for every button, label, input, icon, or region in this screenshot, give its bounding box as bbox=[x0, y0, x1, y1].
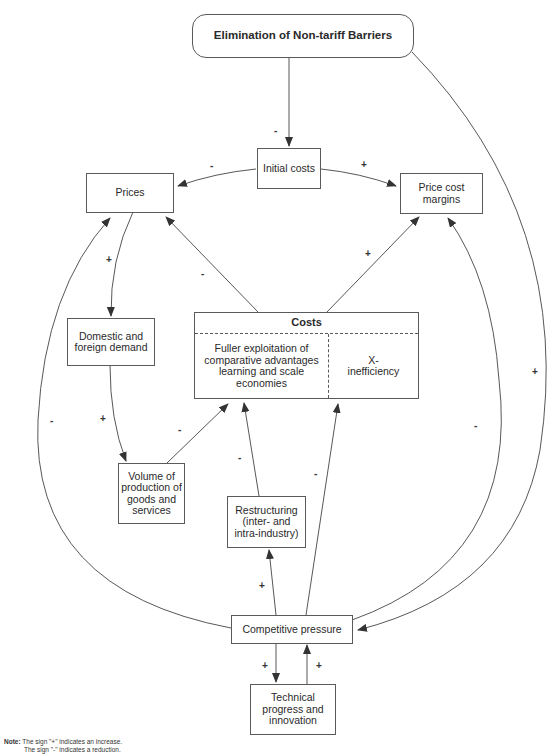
node-label: Initial costs bbox=[263, 163, 315, 175]
node-costs: Costs Fuller exploitation of comparative… bbox=[194, 312, 419, 399]
edge-costs-margins bbox=[327, 217, 419, 312]
node-label: Domestic and foreign demand bbox=[70, 331, 152, 354]
sign-initial-margins: + bbox=[361, 159, 367, 170]
costs-comparative-advantages: Fuller exploitation of comparative advan… bbox=[195, 334, 329, 398]
node-domestic-foreign-demand: Domestic and foreign demand bbox=[67, 318, 155, 366]
node-label: Competitive pressure bbox=[242, 624, 341, 636]
edge-competition-margins bbox=[352, 218, 501, 620]
sign-restructuring-costs: - bbox=[238, 452, 241, 463]
costs-header: Costs bbox=[195, 313, 418, 334]
sign-competition-prices: - bbox=[50, 415, 53, 426]
edge-prices-demand bbox=[111, 212, 133, 316]
sign-costs-margins: + bbox=[365, 248, 371, 259]
sign-demand-volume: + bbox=[100, 413, 106, 424]
legend-note: Note: The sign "+" indicates an increase… bbox=[4, 738, 122, 754]
node-label: Volume of production of goods and servic… bbox=[120, 471, 184, 517]
sign-technical-competition: + bbox=[316, 660, 322, 671]
edge-volume-costs bbox=[167, 404, 228, 463]
node-label: Price cost margins bbox=[412, 182, 472, 205]
edge-initial-margins bbox=[321, 169, 396, 186]
node-price-cost-margins: Price cost margins bbox=[400, 173, 483, 214]
node-label: X-inefficiency bbox=[345, 355, 403, 378]
node-initial-costs: Initial costs bbox=[257, 148, 321, 189]
node-competitive-pressure: Competitive pressure bbox=[231, 615, 353, 644]
sign-prices-demand: + bbox=[106, 254, 112, 265]
note-line-2: The sign "-" indicates a reduction. bbox=[24, 746, 121, 753]
note-line-1: The sign "+" indicates an increase. bbox=[22, 738, 122, 745]
edge-restructuring-costs bbox=[244, 403, 259, 496]
sign-title-initial: - bbox=[274, 125, 277, 136]
sign-initial-prices: - bbox=[210, 160, 213, 171]
node-label: Fuller exploitation of comparative advan… bbox=[201, 343, 323, 389]
node-prices: Prices bbox=[86, 173, 174, 213]
sign-volume-costs: - bbox=[178, 424, 181, 435]
edge-costs-prices bbox=[166, 217, 258, 312]
sign-costs-prices: - bbox=[201, 268, 204, 279]
node-volume-production: Volume of production of goods and servic… bbox=[118, 463, 185, 524]
node-label: Technical progress and innovation bbox=[259, 692, 327, 727]
node-technical-progress: Technical progress and innovation bbox=[250, 684, 336, 735]
edge-demand-volume bbox=[110, 365, 126, 461]
node-label: Restructuring (inter- and intra-industry… bbox=[232, 505, 302, 540]
node-label: Prices bbox=[115, 187, 144, 199]
note-label: Note: bbox=[4, 738, 21, 745]
edge-competition-prices bbox=[38, 218, 231, 628]
costs-x-inefficiency: X-inefficiency bbox=[329, 334, 418, 398]
node-restructuring: Restructuring (inter- and intra-industry… bbox=[227, 496, 306, 548]
edge-initial-prices bbox=[178, 169, 256, 186]
sign-competition-restructuring: + bbox=[259, 580, 265, 591]
edge-competition-restructuring bbox=[269, 550, 276, 615]
sign-competition-xineff: - bbox=[314, 468, 317, 479]
node-elimination-ntb: Elimination of Non-tariff Barriers bbox=[192, 14, 414, 58]
node-label: Elimination of Non-tariff Barriers bbox=[214, 30, 392, 42]
sign-competition-technical: + bbox=[262, 660, 268, 671]
sign-competition-margins: - bbox=[474, 420, 477, 431]
edge-competition-xineff bbox=[306, 404, 338, 615]
sign-title-competition: + bbox=[532, 366, 538, 377]
